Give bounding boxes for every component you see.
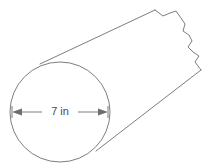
cylinder-top-edge [40,10,155,64]
torn-edge-zigzag [155,10,201,70]
cylinder-figure-svg: 7 in [0,0,217,168]
diameter-label: 7 in [51,105,69,117]
dimension-arrowhead-right [98,109,108,116]
cylinder-diagram: 7 in [0,0,217,168]
dimension-arrowhead-left [12,109,22,116]
cylinder-bottom-edge [96,70,201,151]
